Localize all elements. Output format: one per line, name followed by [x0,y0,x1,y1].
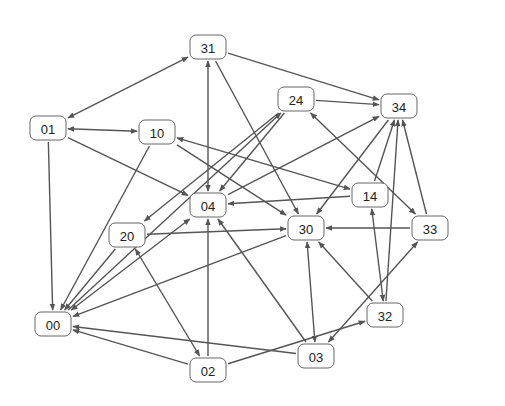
node-label: 20 [120,229,134,244]
node-31: 31 [190,35,226,59]
node-label: 33 [423,222,437,237]
node-30: 30 [288,216,324,240]
node-10: 10 [139,120,175,144]
node-label: 01 [41,122,55,137]
node-20: 20 [109,223,145,247]
node-32: 32 [367,303,403,327]
node-04: 04 [190,193,226,217]
node-label: 14 [363,189,377,204]
node-label: 02 [201,364,215,379]
edge-01-10 [68,129,137,132]
edge-20-30 [147,229,286,234]
node-14: 14 [352,183,388,207]
edge-14-34 [375,120,395,181]
node-label: 10 [150,126,164,141]
edge-20-00 [65,249,116,310]
node-24: 24 [278,87,314,111]
edge-31-30 [216,61,299,214]
nodes-layer: 3101102434041420303300320302 [30,35,448,382]
node-33: 33 [412,216,448,240]
edge-32-30 [319,242,373,301]
node-02: 02 [190,358,226,382]
edge-24-34 [316,100,379,104]
graph-canvas: 3101102434041420303300320302 [0,0,505,406]
edge-01-00 [48,142,52,310]
edge-20-02 [135,249,199,356]
node-00: 00 [35,312,71,336]
node-34: 34 [381,94,417,118]
node-label: 00 [46,318,60,333]
node-label: 31 [201,41,215,56]
node-label: 30 [299,222,313,237]
edge-30-03 [307,242,315,342]
node-label: 34 [392,100,406,115]
edge-02-00 [73,330,188,364]
edge-31-01 [68,57,188,118]
edge-00-24 [68,113,281,310]
node-03: 03 [298,344,334,368]
edge-32-34 [386,120,398,301]
node-label: 04 [201,199,215,214]
node-label: 03 [309,350,323,365]
node-label: 24 [289,93,303,108]
node-01: 01 [30,116,66,140]
node-label: 32 [378,309,392,324]
edge-33-34 [403,120,427,214]
